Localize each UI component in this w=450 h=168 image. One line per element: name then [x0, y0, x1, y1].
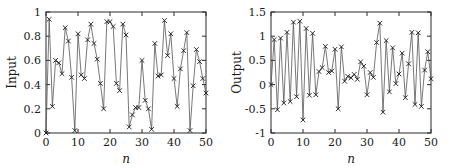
x-tick-label: 50: [199, 136, 213, 149]
x-tick-label: 40: [167, 136, 181, 149]
x-tick-label: 50: [424, 136, 438, 149]
y-tick-label: 0: [259, 79, 266, 92]
y-tick-label: 0.8: [24, 30, 42, 43]
x-tick-label: 0: [43, 136, 50, 149]
plot-frame: [271, 12, 431, 133]
x-axis-title: n: [122, 152, 130, 166]
y-tick-label: 0.4: [24, 79, 42, 92]
y-tick-label: 1.5: [249, 6, 267, 19]
panel-output: 01020304050-1-0.500.511.5nOutput: [225, 0, 450, 168]
data-line: [271, 21, 431, 120]
plot-frame: [46, 12, 206, 133]
panel-input: 0102030405000.20.40.60.81nInput: [0, 0, 225, 168]
figure-container: 0102030405000.20.40.60.81nInput 01020304…: [0, 0, 450, 168]
y-tick-label: 0: [34, 127, 41, 140]
data-markers: [44, 17, 209, 135]
x-tick-label: 0: [268, 136, 275, 149]
x-tick-label: 20: [328, 136, 342, 149]
x-tick-label: 30: [360, 136, 374, 149]
x-tick-label: 20: [103, 136, 117, 149]
x-tick-label: 30: [135, 136, 149, 149]
y-tick-label: -0.5: [245, 103, 266, 116]
y-axis-title: Input: [5, 56, 19, 89]
x-tick-label: 10: [71, 136, 85, 149]
y-tick-label: 1: [259, 30, 266, 43]
y-tick-label: 0.5: [249, 54, 267, 67]
x-tick-label: 10: [296, 136, 310, 149]
y-axis-title: Output: [230, 51, 244, 94]
data-markers: [269, 19, 434, 122]
output-plot: 01020304050-1-0.500.511.5nOutput: [225, 0, 450, 168]
input-plot: 0102030405000.20.40.60.81nInput: [0, 0, 225, 168]
y-tick-label: 0.2: [24, 103, 42, 116]
y-tick-label: 0.6: [24, 54, 42, 67]
y-tick-label: -1: [255, 127, 266, 140]
x-axis-title: n: [347, 152, 355, 166]
y-tick-label: 1: [34, 6, 41, 19]
x-tick-label: 40: [392, 136, 406, 149]
